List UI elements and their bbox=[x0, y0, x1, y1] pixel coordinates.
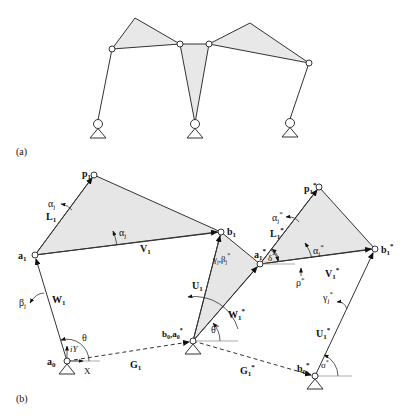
label-p1: p1 bbox=[82, 168, 92, 181]
label-sigma-star: σ* bbox=[321, 359, 329, 370]
label-a0: a0 bbox=[47, 356, 56, 369]
label-X: X bbox=[84, 366, 91, 376]
joint-p1star bbox=[316, 184, 322, 190]
panel-b bbox=[30, 172, 378, 389]
label-b1: b1 bbox=[227, 226, 237, 239]
label-iY: iY bbox=[70, 344, 79, 354]
label-U1: U1 bbox=[192, 280, 203, 293]
ground-pivot-left bbox=[90, 120, 106, 139]
label-G1: G1 bbox=[130, 359, 142, 372]
vector-U1star bbox=[315, 253, 373, 376]
ground-pivot-right bbox=[282, 119, 298, 138]
panel-b-labels: a0 a1 p1 b1 b0,a0* a1* p1* b1* b0* W1 L1… bbox=[18, 168, 394, 378]
joint-p1 bbox=[91, 172, 97, 178]
ground-pivot-b0star bbox=[307, 373, 323, 389]
joint bbox=[177, 41, 183, 47]
label-b0-a0star: b0,a0* bbox=[162, 327, 183, 340]
label-a1: a1 bbox=[18, 250, 27, 263]
vector-G1 bbox=[67, 342, 189, 361]
label-U1star: U1* bbox=[316, 326, 331, 341]
label-alpha-j-outer: αj bbox=[48, 198, 55, 211]
label-V1star: V1* bbox=[325, 266, 340, 281]
panel-a-label: (a) bbox=[16, 146, 27, 158]
middle-triangle-link bbox=[180, 44, 209, 123]
left-crank bbox=[98, 49, 112, 120]
triangle-b0-b1-a1star bbox=[193, 232, 260, 341]
joint-b1 bbox=[218, 229, 224, 235]
label-gamma-j-star: γj* bbox=[322, 290, 333, 305]
panel-b-label: (b) bbox=[16, 393, 28, 405]
right-triangle-link bbox=[209, 23, 309, 63]
joint bbox=[306, 60, 312, 66]
vector-W1 bbox=[36, 259, 67, 361]
gamma-j-star-arc bbox=[337, 302, 347, 309]
joint bbox=[109, 46, 115, 52]
label-G1star: G1* bbox=[240, 363, 255, 378]
panel-a bbox=[90, 18, 312, 138]
label-W1star: W1* bbox=[228, 307, 246, 322]
right-crank bbox=[290, 63, 309, 119]
label-b1star: b1* bbox=[381, 242, 394, 257]
label-beta-j: βj bbox=[19, 297, 26, 310]
joint-a1 bbox=[32, 252, 38, 258]
ground-pivot-middle bbox=[187, 120, 203, 139]
label-L1: L1 bbox=[46, 211, 57, 224]
label-theta: θ bbox=[82, 332, 87, 343]
linkage-figure: (a) bbox=[0, 0, 405, 419]
beta-j-arc bbox=[30, 293, 44, 303]
label-rho-star: ρ* bbox=[296, 276, 305, 288]
joint-b1star bbox=[372, 246, 378, 252]
left-triangle-link bbox=[112, 18, 180, 49]
joint bbox=[206, 41, 212, 47]
label-alpha-j-star-outer: αj* bbox=[272, 210, 283, 225]
ground-pivot-b0-a0star bbox=[185, 338, 201, 354]
label-W1: W1 bbox=[52, 294, 66, 307]
ground-pivot-a0 bbox=[59, 358, 75, 374]
label-V1: V1 bbox=[140, 243, 151, 256]
